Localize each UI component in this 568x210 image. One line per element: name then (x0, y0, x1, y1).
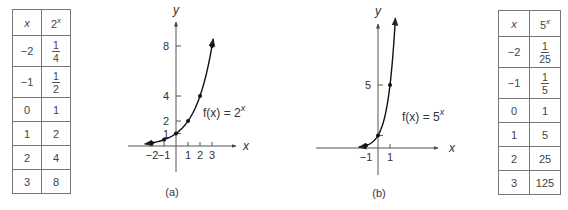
y-tick-label: 8 (163, 40, 169, 52)
graph-caption: (a) (165, 186, 178, 198)
data-point (186, 119, 190, 123)
x-tick-label: 2 (197, 149, 203, 161)
data-point (376, 133, 380, 137)
data-point (388, 83, 392, 87)
function-label: f(x) = 2x (203, 103, 246, 120)
data-point (162, 138, 166, 142)
function-curve (145, 39, 213, 144)
x-tick-label: −2 (146, 149, 159, 161)
data-point (198, 94, 202, 98)
graph-b: xy−115f(x) = 5x(b) (316, 4, 456, 199)
function-label-exponent: x (240, 103, 246, 113)
data-point (210, 44, 214, 48)
data-point (174, 132, 178, 136)
function-label-base: f(x) = 5 (402, 110, 440, 124)
x-axis-label: x (242, 139, 250, 153)
x-tick-label: 1 (387, 151, 393, 163)
y-tick-label: 4 (163, 90, 169, 102)
y-tick-label: 2 (163, 115, 169, 127)
x-axis-label: x (448, 141, 456, 155)
data-point (150, 141, 154, 145)
x-tick-label: −1 (158, 149, 171, 161)
y-tick-label: 5 (365, 79, 371, 91)
x-tick-label: 3 (209, 149, 215, 161)
graph-caption: (b) (372, 187, 385, 199)
x-tick-label: −1 (360, 151, 373, 163)
y-axis-label: y (172, 3, 180, 17)
plots-canvas: xy−2−11231248f(x) = 2x(a) xy−115f(x) = 5… (0, 0, 568, 210)
function-label-base: f(x) = 2 (203, 106, 241, 120)
data-point (364, 143, 368, 147)
x-tick-label: 1 (185, 149, 191, 161)
function-label: f(x) = 5x (402, 107, 445, 124)
function-label-exponent: x (439, 107, 445, 117)
graph-a: xy−2−11231248f(x) = 2x(a) (128, 3, 250, 198)
y-axis-label: y (374, 4, 382, 18)
